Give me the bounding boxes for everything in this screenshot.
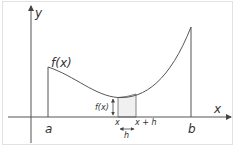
a-label: a: [45, 122, 52, 136]
x-plus-h-label: x + h: [134, 118, 157, 127]
x-axis-label: x: [213, 102, 222, 116]
curve-label: f(x): [51, 56, 72, 70]
h-label: h: [124, 131, 129, 140]
b-label: b: [188, 122, 196, 136]
x-tick-label: x: [114, 118, 120, 127]
height-label: f(x): [95, 103, 109, 112]
area-under-curve-diagram: y x f(x) f(x) a b x x + h h: [0, 0, 237, 148]
y-axis-label: y: [34, 6, 43, 20]
